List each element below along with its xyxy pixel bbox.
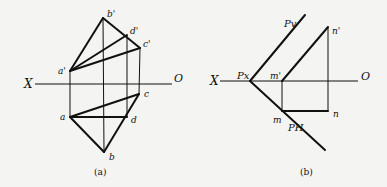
edge-a-c [70, 94, 139, 117]
label-d: d [131, 115, 137, 125]
caption-b: (b) [300, 167, 313, 177]
x-label-a: X [23, 77, 33, 91]
edge-a-prime-d-prime [70, 35, 127, 71]
projector-c [139, 48, 140, 94]
trace-ph [250, 81, 325, 150]
edge-a-prime-b-prime [70, 18, 103, 71]
label-m-prime: m' [270, 71, 281, 81]
edge-a-b [70, 117, 104, 152]
edge-a-prime-c-prime [70, 48, 140, 71]
x-label-b: X [209, 74, 219, 88]
projector-b [103, 18, 104, 152]
o-label-a: O [174, 72, 183, 85]
figure-b: X O Px Pv PH m' n' m n (b) [209, 15, 370, 177]
label-n: n [333, 109, 339, 119]
label-c-prime: c' [143, 39, 151, 49]
diagram-canvas: X O b' d' c' a' c a d b (a) X O Px Pv PH… [0, 0, 387, 187]
label-pv: Pv [283, 18, 297, 29]
o-label-b: O [361, 70, 370, 83]
label-px: Px [236, 70, 250, 81]
label-b-prime: b' [107, 9, 115, 19]
label-ph: PH [287, 122, 304, 133]
label-c: c [144, 89, 149, 99]
label-d-prime: d' [130, 26, 138, 36]
label-b: b [109, 152, 115, 162]
label-n-prime: n' [332, 26, 340, 36]
figure-a: X O b' d' c' a' c a d b (a) [23, 9, 183, 177]
label-m: m [273, 115, 282, 125]
label-a-prime: a' [58, 66, 66, 76]
label-a: a [60, 112, 65, 122]
caption-a: (a) [94, 167, 106, 177]
